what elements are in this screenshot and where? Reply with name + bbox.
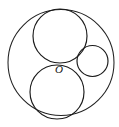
top-circle [33,9,87,63]
right-small-circle [77,46,108,77]
center-point-label-o: O [55,63,63,75]
geometry-figure-container: O [0,0,119,127]
geometry-figure-svg: O [0,0,119,127]
